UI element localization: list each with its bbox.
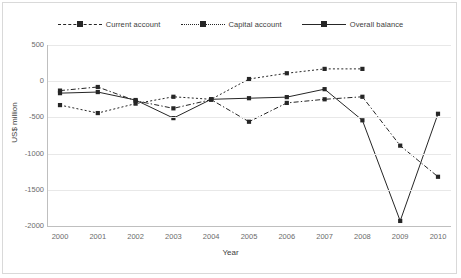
data-point-marker[interactable]: [436, 112, 440, 116]
data-point-marker[interactable]: [58, 103, 62, 107]
y-axis-tick-labels: 5000-500-1000-1500-2000: [0, 0, 44, 278]
solid-line-key-icon: [302, 20, 346, 30]
legend-label-current-account: Current account: [106, 20, 161, 30]
data-point-marker[interactable]: [171, 106, 175, 110]
data-point-marker[interactable]: [209, 97, 213, 101]
y-axis-line: [47, 45, 48, 226]
legend-label-overall-balance: Overall balance: [350, 20, 404, 30]
data-point-marker[interactable]: [323, 87, 327, 91]
data-point-marker[interactable]: [398, 144, 402, 148]
chart-series-layer: [47, 45, 451, 226]
gridline: [47, 190, 451, 191]
chart-container: Current account Capital account Overall …: [0, 0, 461, 278]
data-point-marker[interactable]: [436, 175, 440, 179]
x-axis-tick-label: 2000: [43, 232, 77, 241]
x-axis-tick-label: 2003: [156, 232, 190, 241]
y-axis-tick-label: 500: [4, 41, 44, 49]
gridline: [47, 154, 451, 155]
x-axis-line: [47, 226, 451, 227]
x-axis-tick-label: 2006: [270, 232, 304, 241]
data-point-marker[interactable]: [171, 95, 175, 99]
series-line-overall-balance: [60, 89, 438, 221]
data-point-marker[interactable]: [323, 97, 327, 101]
x-axis-tick-label: 2009: [383, 232, 417, 241]
x-axis-tick-label: 2008: [345, 232, 379, 241]
data-point-marker[interactable]: [398, 219, 402, 223]
data-point-marker[interactable]: [96, 90, 100, 94]
data-point-marker[interactable]: [96, 85, 100, 89]
dotted-line-key-icon: [181, 20, 225, 30]
data-point-marker[interactable]: [58, 91, 62, 95]
y-axis-tick-label: -500: [4, 113, 44, 121]
legend-item-current-account[interactable]: Current account: [58, 18, 161, 32]
data-point-marker[interactable]: [134, 98, 138, 102]
y-axis-tick-label: -1000: [4, 150, 44, 158]
data-point-marker[interactable]: [285, 71, 289, 75]
x-axis-tick-label: 2001: [81, 232, 115, 241]
x-axis-tick-label: 2005: [232, 232, 266, 241]
y-axis-tick-label: -1500: [4, 186, 44, 194]
data-point-marker[interactable]: [360, 67, 364, 71]
x-axis-tick-label: 2007: [308, 232, 342, 241]
y-axis-tick-label: 0: [4, 77, 44, 85]
gridline: [47, 81, 451, 82]
data-point-marker[interactable]: [247, 120, 251, 124]
data-point-marker[interactable]: [247, 96, 251, 100]
x-axis-tick-label: 2004: [194, 232, 228, 241]
x-axis-title: Year: [0, 248, 461, 257]
data-point-marker[interactable]: [323, 67, 327, 71]
legend-item-overall-balance[interactable]: Overall balance: [302, 18, 404, 32]
x-axis-tick-label: 2010: [421, 232, 455, 241]
chart-legend: Current account Capital account Overall …: [0, 17, 461, 33]
legend-label-capital-account: Capital account: [229, 20, 282, 30]
data-point-marker[interactable]: [360, 95, 364, 99]
data-point-marker[interactable]: [96, 111, 100, 115]
x-axis-tick-label: 2002: [119, 232, 153, 241]
data-point-marker[interactable]: [285, 95, 289, 99]
data-point-marker[interactable]: [134, 102, 138, 106]
series-line-current-account: [60, 87, 438, 177]
gridline: [47, 117, 451, 118]
legend-item-capital-account[interactable]: Capital account: [181, 18, 282, 32]
gridline: [47, 45, 451, 46]
data-point-marker[interactable]: [285, 101, 289, 105]
data-point-marker[interactable]: [360, 118, 364, 122]
y-axis-tick-label: -2000: [4, 222, 44, 230]
dash-dot-line-key-icon: [58, 20, 102, 30]
plot-area: [47, 45, 451, 226]
